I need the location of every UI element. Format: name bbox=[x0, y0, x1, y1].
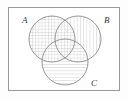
set-label-C: C bbox=[91, 78, 98, 88]
venn-diagram-canvas: A B C bbox=[0, 0, 128, 99]
venn-diagram-figure: A B C bbox=[0, 0, 128, 99]
set-label-B: B bbox=[104, 15, 110, 25]
set-label-A: A bbox=[21, 15, 28, 25]
